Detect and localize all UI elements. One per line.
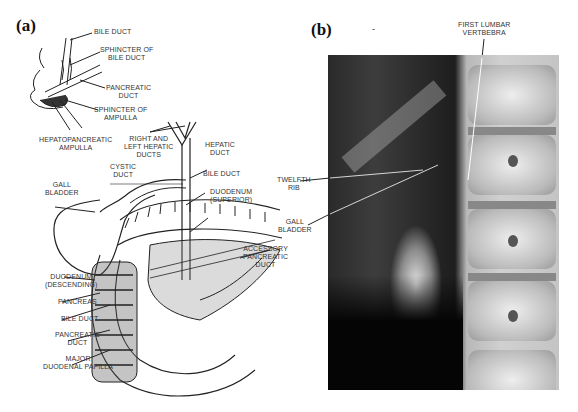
label-pancreatic-duct-lower: PANCREATICDUCT bbox=[55, 331, 100, 347]
label-inset-pancreatic-duct: PANCREATICDUCT bbox=[106, 84, 151, 100]
label-cystic-duct: CYSTICDUCT bbox=[110, 163, 136, 179]
label-accessory-pancreatic-duct: ACCESSORYPANCREATICDUCT bbox=[243, 245, 288, 269]
label-first-lumbar-vertebra: FIRST LUMBARVERTBEBRA bbox=[458, 21, 510, 37]
label-hepatic-duct: HEPATICDUCT bbox=[205, 141, 235, 157]
label-sphincter-ampulla: SPHINCTER OFAMPULLA bbox=[94, 106, 147, 122]
label-right-left-hepatic-ducts: RIGHT ANDLEFT HEPATICDUCTS bbox=[124, 135, 173, 159]
label-hepatopancreatic-ampulla: HEPATOPANCREATICAMPULLA bbox=[39, 136, 112, 152]
label-twelfth-rib: TWELFTHRIB bbox=[277, 176, 311, 192]
label-inset-bile-duct: BILE DUCT bbox=[94, 28, 131, 36]
label-duodenum-descending: DUODENUM(DESCENDING) bbox=[45, 273, 98, 289]
label-major-duodenal-papilla: MAJORDUODENAL PAPILLA bbox=[43, 355, 113, 371]
label-xray-gall-bladder: GALLBLADDER bbox=[278, 218, 312, 234]
xray-leader-lines bbox=[328, 55, 559, 390]
label-bile-duct-lower: BILE DUCT bbox=[61, 315, 98, 323]
label-pancreas: PANCREAS bbox=[58, 298, 97, 306]
label-duodenum-superior: DUODENUM(SUPERIOR) bbox=[210, 188, 252, 204]
label-sphincter-bile-duct: SPHINCTER OFBILE DUCT bbox=[100, 46, 153, 62]
label-bile-duct: BILE DUCT bbox=[203, 170, 240, 178]
inset-pancreatic-duct bbox=[45, 65, 102, 97]
radiograph-image bbox=[328, 55, 559, 390]
label-gall-bladder: GALLBLADDER bbox=[45, 181, 79, 197]
